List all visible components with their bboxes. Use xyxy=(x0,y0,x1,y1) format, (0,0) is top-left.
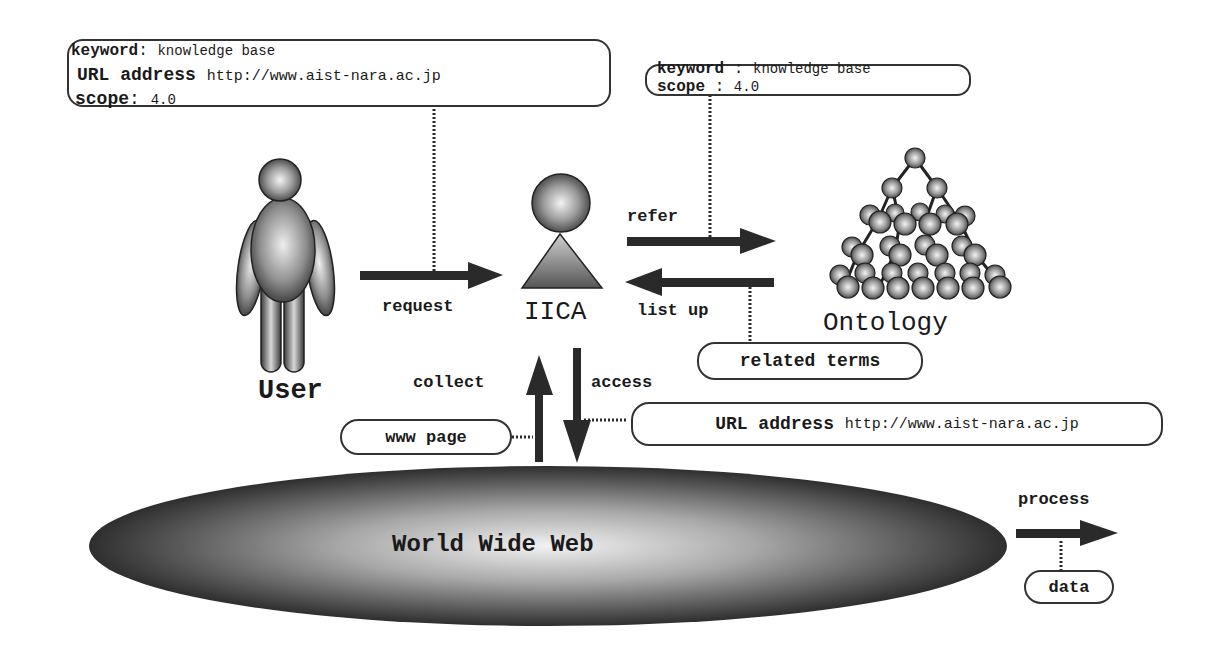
request-scope-sep: : xyxy=(129,89,140,109)
refer-keyword-label: keyword xyxy=(657,60,724,78)
refer-label: refer xyxy=(627,207,678,226)
refer-scope-label: scope xyxy=(657,78,705,96)
request-scope-value: 4.0 xyxy=(151,92,176,108)
access-url-value: http://www.aist-nara.ac.jp xyxy=(845,416,1079,433)
request-keyword-value: knowledge base xyxy=(157,43,275,59)
access-label: access xyxy=(591,373,652,392)
refer-keyword-sep: : xyxy=(734,60,744,78)
list-up-label: list up xyxy=(637,301,708,320)
www-page-pill: www page xyxy=(340,419,512,455)
refer-scope-sep: : xyxy=(715,78,725,96)
ontology-nodes xyxy=(830,148,1011,299)
request-url-value: http://www.aist-nara.ac.jp xyxy=(207,68,441,85)
related-terms-pill: related terms xyxy=(697,342,923,380)
request-keyword-label: keyword xyxy=(71,42,138,60)
access-arrow xyxy=(563,348,591,463)
request-label: request xyxy=(382,297,453,316)
agent-figure-icon xyxy=(522,174,602,288)
agent-label: IICA xyxy=(524,297,586,327)
list-up-arrow xyxy=(625,268,774,296)
user-label: User xyxy=(258,376,323,406)
request-keyword-sep: : xyxy=(138,42,148,60)
legend-process-label: process xyxy=(1018,490,1089,509)
user-figure-icon xyxy=(231,159,339,372)
refer-info-box: keyword : knowledge base scope : 4.0 xyxy=(645,64,971,96)
access-url-label: URL address xyxy=(715,414,834,434)
collect-label: collect xyxy=(413,373,484,392)
collect-arrow xyxy=(526,355,553,462)
web-label: World Wide Web xyxy=(392,531,594,558)
refer-arrow xyxy=(627,228,776,254)
legend-data-pill: data xyxy=(1024,570,1114,604)
request-info-box: keyword: knowledge base URL address http… xyxy=(67,39,611,107)
ontology-label: Ontology xyxy=(823,308,948,338)
refer-keyword-value: knowledge base xyxy=(753,61,871,77)
request-scope-label: scope xyxy=(75,89,129,109)
request-url-label: URL address xyxy=(77,65,196,85)
legend-process-arrow xyxy=(1016,520,1118,546)
refer-scope-value: 4.0 xyxy=(734,79,759,95)
access-url-pill: URL address http://www.aist-nara.ac.jp xyxy=(631,402,1163,446)
request-arrow xyxy=(360,262,503,289)
